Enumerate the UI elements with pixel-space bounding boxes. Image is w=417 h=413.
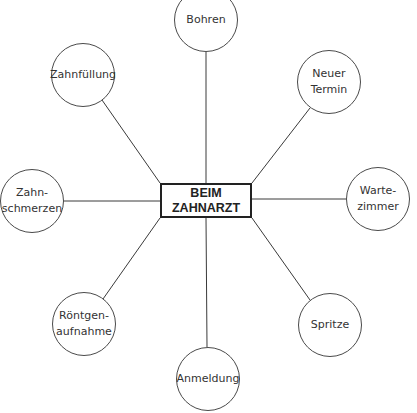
node-zahnfuellung: Zahnfüllung [51, 43, 115, 107]
node-neuer-termin: Neuer Termin [297, 50, 361, 114]
edge-to-anmeldung [206, 218, 207, 347]
edge-to-roentgenaufnahme [103, 218, 160, 299]
node-label: Bohren [186, 12, 225, 28]
node-zahnschmerzen: Zahn- schmerzen [0, 169, 64, 233]
center-topic-box: BEIM ZAHNARZT [160, 183, 252, 218]
edge-to-zahnfuellung [102, 100, 160, 183]
node-label: Röntgen- aufnahme [56, 308, 112, 340]
node-label: Spritze [311, 317, 349, 333]
node-label: Anmeldung [177, 371, 240, 387]
node-label: Warte- zimmer [357, 183, 399, 215]
node-wartezimmer: Warte- zimmer [346, 167, 410, 231]
mind-map-diagram: BohrenNeuer TerminWarte- zimmerSpritzeAn… [0, 0, 417, 413]
node-label: Neuer Termin [311, 66, 348, 98]
node-roentgenaufnahme: Röntgen- aufnahme [52, 292, 116, 356]
node-label: Zahnfüllung [50, 67, 116, 83]
node-label: Zahn- schmerzen [2, 185, 62, 217]
node-anmeldung: Anmeldung [176, 347, 240, 411]
edge-to-neuer-termin [252, 108, 310, 183]
edge-to-spritze [252, 218, 310, 300]
node-spritze: Spritze [298, 293, 362, 357]
